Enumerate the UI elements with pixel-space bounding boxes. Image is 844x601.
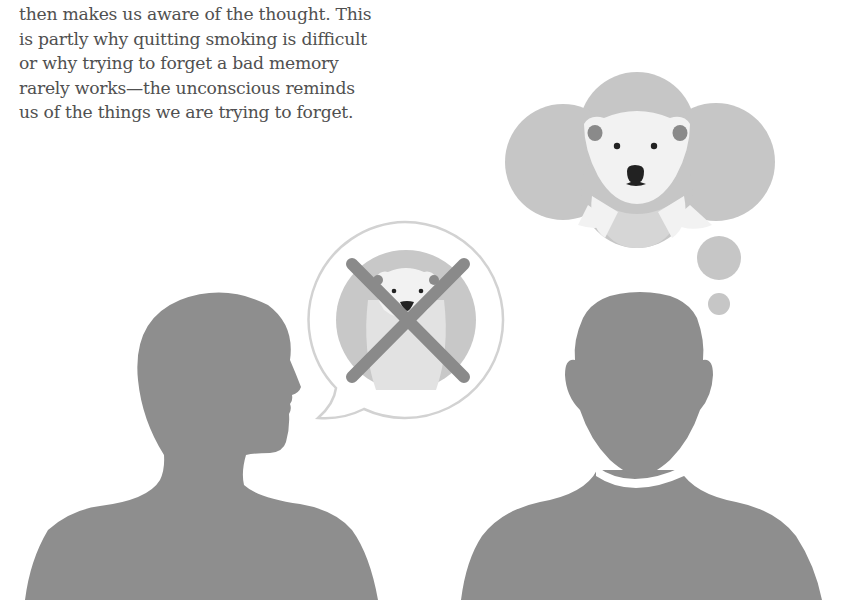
thought-dot-large-icon bbox=[697, 236, 741, 280]
illustration bbox=[0, 0, 844, 601]
thinking-person-silhouette-icon bbox=[461, 292, 822, 600]
thought-dot-small-icon bbox=[708, 293, 730, 315]
